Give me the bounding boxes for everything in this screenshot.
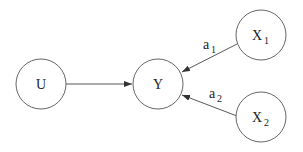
svg-text:1: 1 [211, 44, 216, 55]
svg-text:Y: Y [153, 77, 163, 92]
node-x1: X 1 [236, 10, 286, 60]
svg-text:X: X [252, 28, 262, 43]
svg-text:a: a [209, 86, 216, 101]
causal-diagram: a 1 a 2 U Y X 1 X 2 [0, 0, 303, 152]
svg-text:X: X [252, 110, 262, 125]
svg-text:1: 1 [264, 35, 269, 46]
node-u: U [16, 59, 66, 109]
edge-label-a2: a 2 [209, 86, 222, 104]
svg-text:2: 2 [264, 117, 269, 128]
svg-text:2: 2 [217, 93, 222, 104]
node-x2: X 2 [236, 92, 286, 142]
node-y: Y [133, 59, 183, 109]
svg-text:U: U [36, 77, 46, 92]
svg-text:a: a [203, 37, 210, 52]
edge-label-a1: a 1 [203, 37, 216, 55]
edge-x1-to-y [182, 44, 237, 72]
